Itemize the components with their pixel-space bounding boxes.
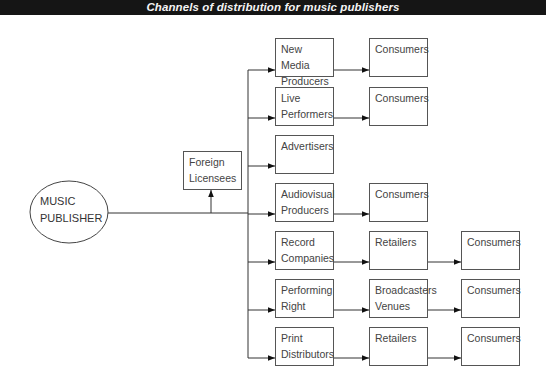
- record-companies-box: Record Companies: [275, 231, 334, 270]
- consumers-box: Consumers: [461, 279, 520, 318]
- consumers-box: Consumers: [461, 327, 520, 366]
- consumers-box: Consumers: [461, 231, 520, 270]
- live-performers-box: Live Performers: [275, 87, 334, 126]
- consumers-box: Consumers: [369, 183, 428, 222]
- broadcasters-venues-box: Broadcasters Venues: [369, 279, 428, 318]
- print-distributors-box: Print Distributors: [275, 327, 334, 366]
- performing-right-box: Performing Right: [275, 279, 334, 318]
- music-publisher-label: MUSIC PUBLISHER: [40, 193, 102, 227]
- consumers-box: Consumers: [369, 38, 428, 77]
- consumers-box: Consumers: [369, 87, 428, 126]
- new-media-producers-box: New Media Producers: [275, 38, 334, 77]
- advertisers-box: Advertisers: [275, 135, 334, 174]
- retailers-box: Retailers: [369, 327, 428, 366]
- connector-lines: [0, 0, 546, 381]
- retailers-box: Retailers: [369, 231, 428, 270]
- foreign-licensees-box: Foreign Licensees: [183, 151, 242, 190]
- audiovisual-producers-box: Audiovisual Producers: [275, 183, 334, 222]
